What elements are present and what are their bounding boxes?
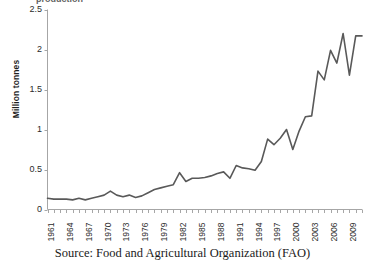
x-tick-label: 1973 [122, 208, 131, 242]
x-tick-label: 2006 [330, 208, 339, 242]
x-tick-label: 1997 [273, 208, 282, 242]
plot-area: 00.511.522.5 196119641967197019731976197… [0, 0, 365, 248]
x-tick-label: 1979 [160, 208, 169, 242]
x-tick-label: 1976 [141, 208, 150, 242]
x-axis-tick-labels: 1961196419671970197319761979198219851988… [0, 0, 365, 248]
y-axis-title: Million tonnes [11, 29, 21, 149]
source-caption: Source: Food and Agricultural Organizati… [0, 246, 365, 261]
x-tick-label: 1970 [103, 208, 112, 242]
x-tick-label: 1982 [179, 208, 188, 242]
x-tick-label: 1988 [216, 208, 225, 242]
x-tick-label: 1964 [65, 208, 74, 242]
x-tick-label: 1967 [84, 208, 93, 242]
x-tick-label: 2003 [311, 208, 320, 242]
x-tick-label: 2000 [292, 208, 301, 242]
x-tick-label: 2009 [348, 208, 357, 242]
chart-figure: production 00.511.522.5 1961196419671970… [0, 0, 365, 266]
x-tick-label: 1961 [47, 208, 56, 242]
x-tick-label: 1994 [254, 208, 263, 242]
x-tick-label: 1985 [197, 208, 206, 242]
x-tick-label: 1991 [235, 208, 244, 242]
